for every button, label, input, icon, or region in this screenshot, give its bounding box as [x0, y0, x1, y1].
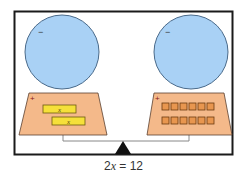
right-tray — [147, 93, 232, 135]
right-tray-plus: + — [155, 94, 160, 103]
left-tray-plus: + — [30, 94, 35, 103]
left-balloon — [25, 15, 99, 89]
x-tile: x — [52, 117, 85, 126]
right-balloon-minus: − — [165, 27, 170, 37]
left-balloon-minus: − — [38, 27, 43, 37]
equation-caption: 2x = 12 — [0, 159, 247, 174]
equation-constant: 12 — [130, 159, 143, 173]
balance-diagram: − − + x x + — [0, 0, 247, 179]
equation-equals: = — [116, 159, 130, 173]
x-tile: x — [43, 105, 76, 114]
equation-coefficient: 2 — [104, 159, 111, 173]
